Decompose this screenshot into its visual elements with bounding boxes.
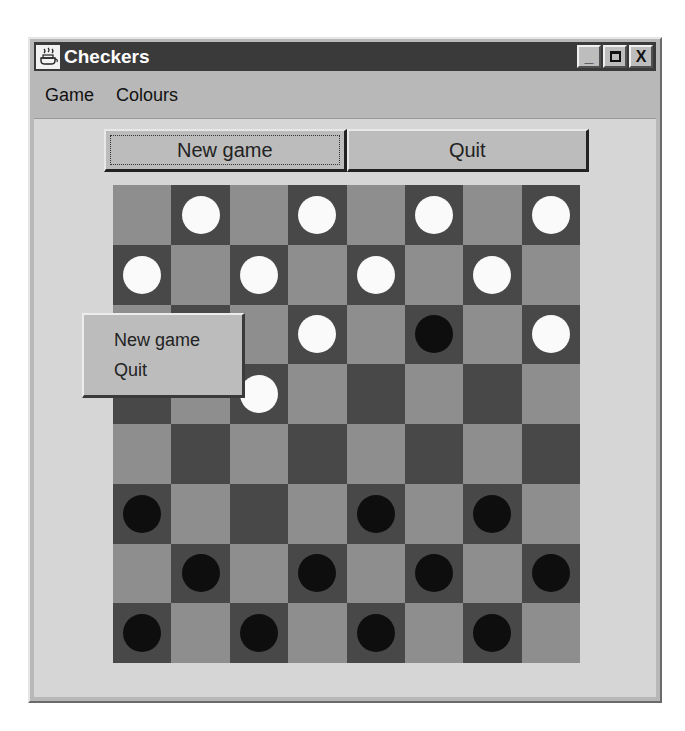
board-square[interactable]: [288, 245, 346, 305]
focus-ring: [110, 135, 340, 165]
board-square[interactable]: [113, 603, 171, 663]
maximize-button[interactable]: [603, 45, 627, 68]
white-piece[interactable]: [298, 315, 336, 353]
menu-game[interactable]: Game: [34, 85, 105, 106]
quit-label: Quit: [449, 139, 486, 162]
board-square[interactable]: [288, 185, 346, 245]
black-piece[interactable]: [123, 614, 161, 652]
maximize-icon: [610, 51, 621, 62]
board-square[interactable]: [113, 484, 171, 544]
board-square[interactable]: [288, 484, 346, 544]
board-square[interactable]: [522, 544, 580, 604]
board-square[interactable]: [171, 544, 229, 604]
board-square[interactable]: [405, 484, 463, 544]
white-piece[interactable]: [240, 256, 278, 294]
white-piece[interactable]: [240, 375, 278, 413]
title-bar[interactable]: Checkers _ X: [34, 42, 656, 71]
board-square[interactable]: [113, 185, 171, 245]
minimize-button[interactable]: _: [577, 45, 601, 68]
menu-colours[interactable]: Colours: [105, 85, 189, 106]
board-square[interactable]: [463, 484, 521, 544]
board-square[interactable]: [347, 305, 405, 365]
board-square[interactable]: [405, 364, 463, 424]
board-square[interactable]: [347, 245, 405, 305]
board-square[interactable]: [463, 364, 521, 424]
white-piece[interactable]: [357, 256, 395, 294]
board-square[interactable]: [405, 305, 463, 365]
board-square[interactable]: [230, 424, 288, 484]
board-square[interactable]: [230, 603, 288, 663]
board-square[interactable]: [522, 245, 580, 305]
black-piece[interactable]: [240, 614, 278, 652]
board-square[interactable]: [522, 603, 580, 663]
board-square[interactable]: [347, 603, 405, 663]
close-button[interactable]: X: [629, 45, 653, 68]
black-piece[interactable]: [357, 614, 395, 652]
board-square[interactable]: [347, 544, 405, 604]
board-square[interactable]: [171, 603, 229, 663]
button-row: New game Quit: [104, 129, 589, 172]
board-square[interactable]: [230, 484, 288, 544]
board-square[interactable]: [463, 185, 521, 245]
board-square[interactable]: [347, 424, 405, 484]
board-square[interactable]: [288, 544, 346, 604]
minimize-icon: _: [585, 48, 594, 66]
white-piece[interactable]: [298, 196, 336, 234]
board-square[interactable]: [347, 364, 405, 424]
board-square[interactable]: [522, 305, 580, 365]
board-square[interactable]: [113, 424, 171, 484]
black-piece[interactable]: [473, 614, 511, 652]
white-piece[interactable]: [532, 196, 570, 234]
white-piece[interactable]: [123, 256, 161, 294]
popup-new-game[interactable]: New game: [84, 325, 242, 355]
board-square[interactable]: [522, 484, 580, 544]
board-square[interactable]: [288, 305, 346, 365]
board-square[interactable]: [463, 424, 521, 484]
board-square[interactable]: [230, 185, 288, 245]
black-piece[interactable]: [357, 495, 395, 533]
board-square[interactable]: [405, 424, 463, 484]
board-square[interactable]: [171, 245, 229, 305]
board-square[interactable]: [171, 424, 229, 484]
board-square[interactable]: [522, 185, 580, 245]
quit-button[interactable]: Quit: [347, 129, 590, 172]
board-square[interactable]: [522, 424, 580, 484]
board-square[interactable]: [113, 544, 171, 604]
black-piece[interactable]: [415, 315, 453, 353]
popup-quit[interactable]: Quit: [84, 355, 242, 385]
board-square[interactable]: [230, 544, 288, 604]
java-coffee-cup-icon[interactable]: [36, 45, 60, 69]
new-game-button[interactable]: New game: [104, 129, 347, 172]
board-square[interactable]: [522, 364, 580, 424]
white-piece[interactable]: [415, 196, 453, 234]
white-piece[interactable]: [182, 196, 220, 234]
board-square[interactable]: [463, 603, 521, 663]
board-square[interactable]: [405, 185, 463, 245]
board-square[interactable]: [288, 603, 346, 663]
board-square[interactable]: [405, 245, 463, 305]
board-square[interactable]: [171, 185, 229, 245]
board-square[interactable]: [171, 484, 229, 544]
game-panel: New game Quit: [34, 118, 656, 697]
board-square[interactable]: [230, 245, 288, 305]
board-square[interactable]: [288, 424, 346, 484]
board-square[interactable]: [288, 364, 346, 424]
board-square[interactable]: [113, 245, 171, 305]
menu-bar: Game Colours: [34, 73, 656, 117]
black-piece[interactable]: [473, 495, 511, 533]
board-square[interactable]: [347, 185, 405, 245]
board-square[interactable]: [463, 544, 521, 604]
checkers-board[interactable]: [113, 185, 580, 663]
black-piece[interactable]: [182, 554, 220, 592]
black-piece[interactable]: [532, 554, 570, 592]
black-piece[interactable]: [415, 554, 453, 592]
white-piece[interactable]: [473, 256, 511, 294]
black-piece[interactable]: [298, 554, 336, 592]
board-square[interactable]: [347, 484, 405, 544]
white-piece[interactable]: [532, 315, 570, 353]
board-square[interactable]: [405, 544, 463, 604]
board-square[interactable]: [463, 245, 521, 305]
black-piece[interactable]: [123, 495, 161, 533]
board-square[interactable]: [405, 603, 463, 663]
board-square[interactable]: [463, 305, 521, 365]
